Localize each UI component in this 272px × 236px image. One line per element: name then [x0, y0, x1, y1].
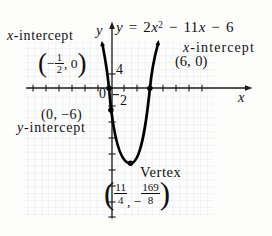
- close-paren: ): [160, 179, 170, 208]
- equation-exponent: 2: [158, 20, 163, 30]
- y-intercept-title: y-intercept: [17, 121, 86, 136]
- quadratic-graph-figure: y = 2x2 − 11x − 6 y x 4 0 2 x-intercept …: [0, 0, 272, 236]
- close-paren: ): [77, 51, 86, 77]
- y-intercept-point: [108, 107, 113, 112]
- origin-label: 0: [99, 87, 106, 102]
- open-paren: (: [104, 179, 114, 208]
- x-intercept-left-title: x-intercept: [7, 29, 73, 44]
- x-tick-label-2: 2: [120, 94, 127, 109]
- y-tick-label-4: 4: [116, 63, 123, 78]
- y-axis-label: y: [96, 23, 102, 38]
- vertex-point: [128, 161, 133, 166]
- x-intercept-right-coordinates: (6, 0): [175, 54, 207, 69]
- fraction-one-half: 12: [56, 52, 63, 77]
- equation-y-var: y: [116, 19, 123, 35]
- x-intercept-point-right: [147, 86, 152, 91]
- x-axis-label: x: [238, 90, 244, 105]
- equation-label: y = 2x2 − 11x − 6: [116, 20, 234, 36]
- x-axis-arrow-icon: [245, 85, 253, 91]
- x-intercept-left-coordinates: (−12, 0): [38, 51, 86, 77]
- vertex-coordinates: (114, −1698): [104, 179, 170, 208]
- open-paren: (: [38, 51, 47, 77]
- x-intercept-point-left: [106, 86, 111, 91]
- y-axis-arrow-icon: [109, 22, 115, 30]
- fraction-eleven-fourths: 114: [115, 181, 126, 207]
- fraction-169-eighths: 1698: [142, 181, 159, 207]
